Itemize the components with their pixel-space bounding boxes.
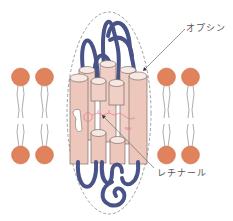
lipid-left-2 [36,68,54,164]
lysine-label: NH [125,126,131,131]
rhodopsin-diagram: NH C N [0,0,233,221]
opsin-leader [143,29,185,71]
opsin-label: オプシン [186,24,226,33]
helices [70,61,147,165]
retinal-label: レチナール [157,169,207,178]
lipid-right-2 [182,68,200,164]
n-terminal-label: N [106,181,109,186]
lipid-right-1 [158,68,176,164]
lipid-left-1 [12,68,30,164]
c-terminal-label: C [130,56,133,61]
